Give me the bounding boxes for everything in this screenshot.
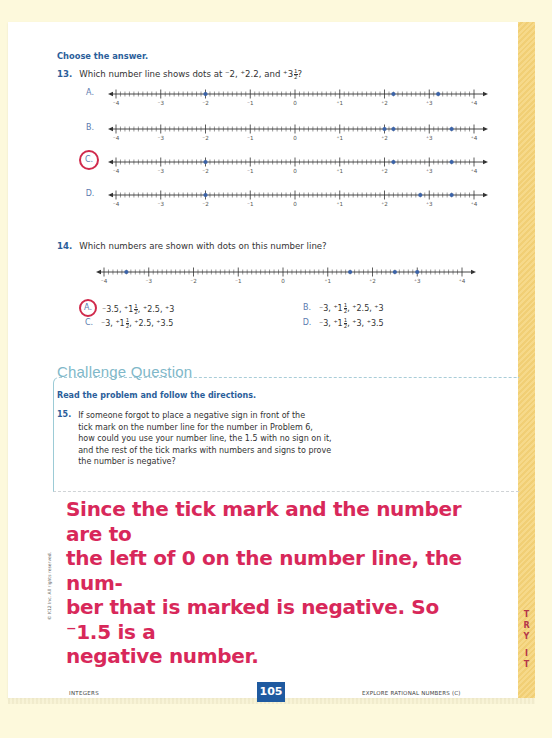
question-values: ⁻2, ⁺2.2, and ⁺3 <box>225 69 293 79</box>
answer-choice-a[interactable]: A. ⁻3.5, ⁺112, ⁺2.5, ⁺3 <box>82 301 174 317</box>
tick-label: 0 <box>293 135 297 141</box>
copyright-notice: © K12 Inc. All rights reserved. <box>47 540 52 620</box>
answer-choice-b[interactable]: B. ⁻3, ⁺112, ⁺2.5, ⁺3 <box>300 301 384 315</box>
option-b[interactable]: B.⁻4⁻3⁻2⁻10⁺1⁺2⁺3⁺4 <box>82 123 512 153</box>
answer-letter: B. <box>300 301 314 315</box>
tick-label: ⁻1 <box>247 168 254 174</box>
question-15: 15. If someone forgot to place a negativ… <box>57 410 332 468</box>
tick-label: ⁻2 <box>190 278 197 284</box>
tick-label: ⁺3 <box>426 135 433 141</box>
tick-label: ⁺3 <box>426 168 433 174</box>
question-text-prefix: Which number line shows dots at <box>79 69 225 79</box>
option-letter: B. <box>82 120 98 136</box>
tick-label: ⁺1 <box>337 201 344 207</box>
answer-line: ber that is marked is negative. So ⁻1.5 … <box>66 595 486 644</box>
answer-suffix: , ⁺2.5, ⁺3 <box>347 304 383 313</box>
tick-labels: ⁻4⁻3⁻2⁻10⁺1⁺2⁺3⁺4 <box>108 100 488 110</box>
answer-text: ⁻3, ⁺112, ⁺2.5, ⁺3 <box>319 303 384 314</box>
tick-label: 0 <box>293 201 297 207</box>
question-number: 13. <box>57 69 72 80</box>
tick-labels: ⁻4⁻3⁻2⁻10⁺1⁺2⁺3⁺4 <box>108 135 488 145</box>
tick-label: ⁻2 <box>202 135 209 141</box>
tick-label: ⁺1 <box>337 135 344 141</box>
tab-letter: T <box>524 659 529 670</box>
tick-label: ⁺4 <box>471 135 478 141</box>
tick-label: ⁺3 <box>414 278 421 284</box>
tick-labels: ⁻4⁻3⁻2⁻10⁺1⁺2⁺3⁺4 <box>96 278 476 288</box>
tick-label: ⁺2 <box>381 135 388 141</box>
number-line-svg <box>108 123 488 135</box>
tick-label: ⁻1 <box>235 278 242 284</box>
tick-label: ⁺1 <box>325 278 332 284</box>
tick-label: ⁻2 <box>202 201 209 207</box>
side-tab-strip: T R Y I T <box>518 22 535 698</box>
answer-choice-d[interactable]: D. ⁻3, ⁺112, ⁺3, ⁺3.5 <box>300 316 384 330</box>
question-line: the number is negative? <box>78 456 331 468</box>
page-number: 105 <box>257 682 285 702</box>
tick-label: ⁺3 <box>426 201 433 207</box>
answer-line: the left of 0 on the number line, the nu… <box>66 546 486 595</box>
tick-label: ⁺4 <box>471 201 478 207</box>
question-number: 14. <box>57 241 72 251</box>
footer-unit-title: INTEGERS <box>69 690 99 696</box>
question-line: and the rest of the tick marks with numb… <box>78 445 331 457</box>
tick-label: ⁺2 <box>381 100 388 106</box>
tick-label: ⁺2 <box>381 168 388 174</box>
tick-label: 0 <box>293 100 297 106</box>
number-line-svg <box>108 189 488 201</box>
tab-letter: T <box>524 609 529 620</box>
tick-label: ⁻3 <box>146 278 153 284</box>
answer-suffix: , ⁺3, ⁺3.5 <box>347 319 383 328</box>
answer-letter: C. <box>82 316 96 330</box>
answer-choice-c[interactable]: C. ⁻3, ⁺112, ⁺2.5, ⁺3.5 <box>82 316 173 330</box>
option-d[interactable]: D.⁻4⁻3⁻2⁻10⁺1⁺2⁺3⁺4 <box>82 189 512 219</box>
tick-label: ⁺1 <box>337 100 344 106</box>
option-c[interactable]: C.⁻4⁻3⁻2⁻10⁺1⁺2⁺3⁺4 <box>82 156 512 186</box>
question-number: 15. <box>57 410 71 468</box>
tick-label: ⁻1 <box>247 201 254 207</box>
answer-prefix: ⁻3, ⁺1 <box>319 319 343 328</box>
option-letter: C. <box>79 150 99 170</box>
tick-label: ⁻3 <box>158 168 165 174</box>
tick-labels: ⁻4⁻3⁻2⁻10⁺1⁺2⁺3⁺4 <box>108 168 488 178</box>
tab-letter: R <box>523 620 529 631</box>
answer-text: ⁻3, ⁺112, ⁺2.5, ⁺3.5 <box>101 318 173 329</box>
answer-text: ⁻3.5, ⁺112, ⁺2.5, ⁺3 <box>102 304 174 315</box>
option-letter: A. <box>82 85 98 101</box>
tick-label: ⁺2 <box>381 201 388 207</box>
tab-letter: I <box>525 648 528 659</box>
question-text: Which number line shows dots at ⁻2, ⁺2.2… <box>79 69 302 80</box>
tick-label: ⁺4 <box>471 100 478 106</box>
footer-lesson-title: EXPLORE RATIONAL NUMBERS (C) <box>362 690 461 696</box>
tick-label: 0 <box>293 168 297 174</box>
answer-letter: A. <box>79 299 97 317</box>
tick-label: ⁻4 <box>113 135 120 141</box>
tab-letter: Y <box>524 631 530 642</box>
number-line-svg <box>108 156 488 168</box>
question-13: 13. Which number line shows dots at ⁻2, … <box>57 69 302 80</box>
tick-label: ⁻1 <box>247 135 254 141</box>
question-line: how could you use your number line, the … <box>78 433 331 445</box>
answer-letter: D. <box>300 316 314 330</box>
tick-label: ⁺2 <box>369 278 376 284</box>
q14-line-row: ⁻4⁻3⁻2⁻10⁺1⁺2⁺3⁺4 <box>70 266 500 296</box>
challenge-instruction: Read the problem and follow the directio… <box>57 391 256 400</box>
answer-suffix: , ⁺2.5, ⁺3 <box>138 305 174 314</box>
handwritten-answer: Since the tick mark and the number are t… <box>66 497 486 669</box>
tick-label: ⁻3 <box>158 135 165 141</box>
question-mark: ? <box>298 69 303 79</box>
question-text: If someone forgot to place a negative si… <box>78 410 331 468</box>
tick-label: ⁻2 <box>202 100 209 106</box>
answer-text: ⁻3, ⁺112, ⁺3, ⁺3.5 <box>319 318 384 329</box>
question-14: 14. Which numbers are shown with dots on… <box>57 241 327 251</box>
tick-label: ⁻4 <box>101 278 108 284</box>
tick-label: ⁻2 <box>202 168 209 174</box>
question-line: If someone forgot to place a negative si… <box>78 410 331 422</box>
question-line: tick mark on the number line for the num… <box>78 422 331 434</box>
tick-label: ⁻4 <box>113 168 120 174</box>
tick-labels: ⁻4⁻3⁻2⁻10⁺1⁺2⁺3⁺4 <box>108 201 488 211</box>
answer-prefix: ⁻3, ⁺1 <box>319 304 343 313</box>
tick-label: ⁻3 <box>158 201 165 207</box>
option-a[interactable]: A.⁻4⁻3⁻2⁻10⁺1⁺2⁺3⁺4 <box>82 88 512 118</box>
answer-line: Since the tick mark and the number are t… <box>66 497 486 546</box>
